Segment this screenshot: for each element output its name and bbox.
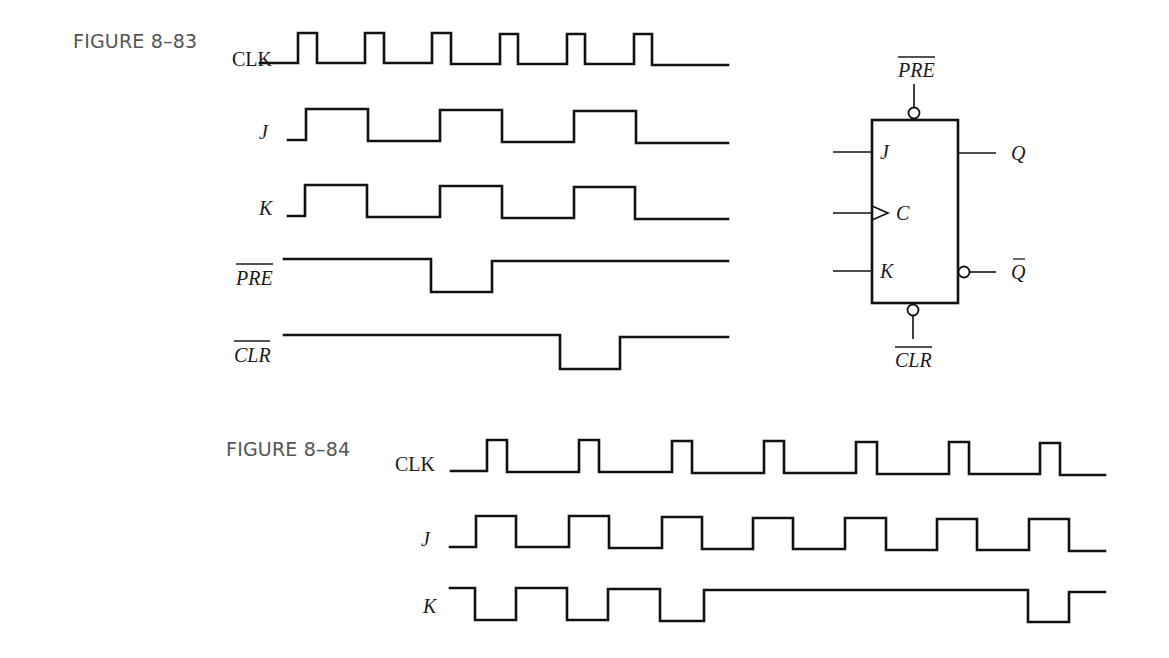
ff-c-label: C	[896, 202, 910, 224]
ff-q-label: Q	[1011, 142, 1026, 164]
fig83-j-waveform	[288, 109, 728, 143]
figure-8-84-title: FIGURE 8–84	[226, 438, 350, 460]
jk-flip-flop-symbol: PRE J C K Q Q CLR	[833, 57, 1026, 371]
ff-pre-inversion-bubble-icon	[909, 108, 920, 119]
fig84-clk-waveform	[451, 440, 1105, 475]
ff-clr-label: CLR	[895, 349, 932, 371]
fig84-clk-label: CLK	[395, 453, 436, 475]
fig83-j-label: J	[259, 121, 269, 143]
figure-8-83-title: FIGURE 8–83	[73, 30, 197, 52]
fig84-k-waveform	[450, 588, 1105, 622]
ff-j-label: J	[880, 141, 890, 163]
fig84-j-label: J	[421, 528, 431, 550]
ff-pre-label: PRE	[897, 59, 935, 81]
ff-qnot-label: Q	[1011, 261, 1026, 283]
fig83-pre-waveform	[284, 259, 728, 292]
ff-clock-triangle-icon	[872, 206, 888, 220]
fig83-clr-waveform	[284, 335, 728, 369]
ff-k-label: K	[879, 260, 895, 282]
figures-canvas: FIGURE 8–83 CLK J K PRE CLR PRE J	[0, 0, 1169, 658]
figure-8-84: FIGURE 8–84 CLK J K	[226, 438, 1105, 622]
ff-qnot-inversion-bubble-icon	[959, 267, 970, 278]
fig83-k-label: K	[258, 197, 274, 219]
fig84-k-label: K	[422, 595, 438, 617]
fig83-pre-label: PRE	[235, 267, 273, 289]
figure-8-83: FIGURE 8–83 CLK J K PRE CLR PRE J	[73, 30, 1026, 371]
fig83-clr-label: CLR	[234, 344, 271, 366]
fig83-k-waveform	[288, 185, 728, 219]
fig84-j-waveform	[450, 516, 1105, 551]
fig83-clk-label: CLK	[232, 48, 273, 70]
fig83-clk-waveform	[260, 33, 728, 65]
ff-clr-inversion-bubble-icon	[908, 305, 919, 316]
